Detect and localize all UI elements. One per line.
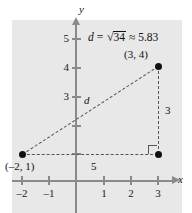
y-tick-label: 5	[55, 33, 69, 44]
x-tick-label: 1	[93, 188, 115, 199]
point-marker	[19, 151, 26, 158]
point-marker	[155, 151, 162, 158]
y-tick-mark	[72, 67, 81, 69]
vertical-leg-length-label: 3	[165, 105, 171, 116]
x-tick-mark	[21, 176, 23, 185]
square-root-icon: √34	[106, 31, 126, 44]
point-label-lower-left: (–2, 1)	[5, 161, 34, 172]
y-tick-mark	[72, 96, 81, 98]
y-tick-mark	[72, 125, 81, 127]
y-axis-label: y	[79, 4, 84, 15]
x-tick-mark	[157, 176, 159, 185]
hypotenuse-length-label: d	[84, 95, 90, 106]
equation-variable: d	[88, 31, 94, 43]
y-tick-label: 3	[55, 91, 69, 102]
point-label-upper-right: (3, 4)	[124, 49, 148, 60]
horizontal-leg-length-label: 5	[91, 161, 97, 172]
vertical-leg-segment	[158, 66, 159, 154]
x-tick-mark	[48, 176, 50, 185]
y-tick-label: 4	[55, 62, 69, 73]
x-tick-mark	[130, 176, 132, 185]
approx-sign: ≈	[129, 31, 135, 43]
y-tick-mark	[72, 38, 81, 40]
point-marker	[155, 63, 162, 70]
x-tick-label: –2	[11, 188, 33, 199]
x-tick-label: 2	[120, 188, 142, 199]
distance-equation: d = √34 ≈ 5.83	[88, 31, 158, 44]
radicand: 34	[113, 31, 127, 44]
y-axis-arrow-icon	[72, 17, 80, 25]
equation-equals-sign: =	[97, 31, 104, 43]
x-axis-label: x	[178, 174, 183, 185]
equation-value: 5.83	[138, 31, 158, 43]
x-tick-label: 3	[147, 188, 169, 199]
x-tick-label: –1	[38, 188, 60, 199]
horizontal-leg-segment	[22, 154, 158, 155]
x-axis-line	[12, 180, 174, 182]
distance-formula-figure: x y –2 –1 1 2 3 3 4 5 (–2, 1) (3, 4) d 3…	[0, 0, 192, 213]
x-tick-mark	[103, 176, 105, 185]
